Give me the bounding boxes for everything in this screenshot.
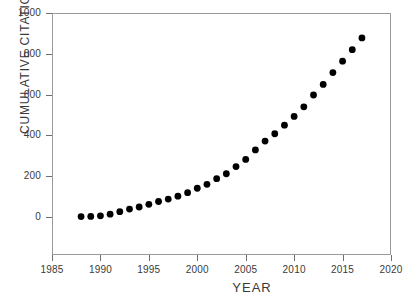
x-tick-mark <box>197 255 198 261</box>
y-tick-label: 600 <box>0 90 41 100</box>
x-tick-label: 1995 <box>124 264 174 275</box>
x-tick-mark <box>391 255 392 261</box>
citations-chart-figure: CUMULATIVE CITATIONS 02004006008001000 1… <box>0 0 408 302</box>
x-axis-title: YEAR <box>0 280 408 295</box>
plot-area <box>53 14 390 254</box>
y-tick-label: 1000 <box>0 8 41 18</box>
x-tick-mark <box>294 255 295 261</box>
x-tick-mark <box>52 255 53 261</box>
x-tick-label: 1990 <box>75 264 125 275</box>
x-tick-label: 1985 <box>27 264 77 275</box>
plot-frame <box>52 13 391 255</box>
y-tick-label: 400 <box>0 130 41 140</box>
y-tick-label: 200 <box>0 171 41 181</box>
x-tick-label: 2020 <box>366 264 408 275</box>
x-tick-label: 2005 <box>221 264 271 275</box>
x-tick-label: 2015 <box>318 264 368 275</box>
y-tick-label: 800 <box>0 49 41 59</box>
x-tick-mark <box>149 255 150 261</box>
y-tick-label: 0 <box>0 212 41 222</box>
x-tick-mark <box>246 255 247 261</box>
x-tick-mark <box>100 255 101 261</box>
x-tick-label: 2010 <box>269 264 319 275</box>
x-tick-label: 2000 <box>172 264 222 275</box>
x-tick-mark <box>343 255 344 261</box>
